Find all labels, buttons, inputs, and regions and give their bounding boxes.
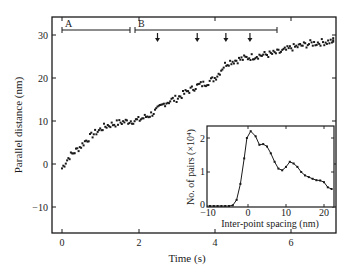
data-point [153,113,155,115]
data-point [117,124,119,126]
inset-data-point [293,163,295,165]
data-point [76,147,78,149]
data-point [313,41,315,43]
inset-data-point [281,169,283,171]
y-tick-label: −10 [32,202,48,213]
data-point [116,119,118,121]
data-point [238,57,240,59]
data-point [123,121,125,123]
data-point [264,51,266,53]
data-point [215,79,217,81]
inset-data-point [239,183,241,185]
inset-x-tick-label: 10 [281,207,291,218]
data-point [134,120,136,122]
data-point [64,166,66,168]
data-point [169,100,171,102]
inset-data-point [255,135,257,137]
data-point [257,58,259,60]
data-point [250,59,252,61]
data-point [306,47,308,49]
data-point [284,47,286,49]
inset-data-point [266,146,268,148]
data-point [191,86,193,88]
data-point [118,119,120,121]
inset-data-point [246,137,248,139]
data-point [216,76,218,78]
segment-label-b: B [138,18,145,29]
data-point [183,93,185,95]
data-point [172,97,174,99]
inset-data-point [220,205,222,207]
data-point [187,90,189,92]
data-point [321,38,323,40]
data-point [132,123,134,125]
data-point [292,50,294,52]
data-point [103,123,105,125]
data-point [322,41,324,43]
inset-frame [207,126,334,207]
data-point [316,44,318,46]
down-arrow-icon [155,33,160,42]
data-point [302,45,304,47]
data-point [266,54,268,56]
data-point [181,97,183,99]
data-point [235,60,237,62]
inset-data-point [213,205,215,207]
data-point [90,132,92,134]
inset-data-point [277,168,279,170]
data-point [289,45,291,47]
down-arrow-icon [247,33,252,42]
inset-data-point [258,144,260,146]
data-point [290,47,292,49]
down-arrow-icon [223,33,228,42]
inset-data-point [315,179,317,181]
inset-x-tick-label: 0 [246,207,251,218]
inset-data-point [285,166,287,168]
data-point [221,69,223,71]
data-point [285,49,287,51]
data-point [251,53,253,55]
data-point [69,158,71,160]
data-point [144,114,146,116]
data-point [150,111,152,113]
inset-data-point [331,188,333,190]
data-point [143,117,145,119]
data-point [182,90,184,92]
segment-label-a: A [65,18,73,29]
data-point [93,133,95,135]
data-point [267,56,269,58]
data-point [286,45,288,47]
data-point [177,98,179,100]
data-point [320,45,322,47]
data-point [94,129,96,131]
data-point [174,95,176,97]
inset-data-point [217,205,219,207]
data-point [95,133,97,135]
data-point [200,81,202,83]
y-tick-label: 0 [43,159,48,170]
y-tick-label: 30 [38,30,48,41]
data-point [229,60,231,62]
data-point [288,47,290,49]
data-point [173,100,175,102]
data-point [98,129,100,131]
data-point [111,122,113,124]
data-point [97,131,99,133]
inset-y-tick-label: 2 [200,133,205,144]
x-tick-label: 0 [60,237,65,248]
data-point [224,62,226,64]
data-point [312,45,314,47]
segment-bars [62,27,277,33]
data-point [130,120,132,122]
inset-data-point [243,157,245,159]
inset-data-point [323,181,325,183]
data-point [83,144,85,146]
x-tick-label: 6 [289,237,294,248]
data-point [278,49,280,51]
data-point [126,119,128,121]
data-point [242,59,244,61]
data-point [262,54,264,56]
data-point [61,167,63,169]
data-point [326,43,328,45]
data-point [149,116,151,118]
